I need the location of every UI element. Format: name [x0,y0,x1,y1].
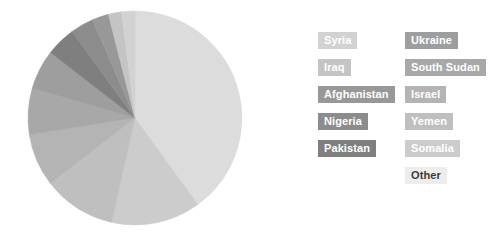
legend-label-syria: Syria [318,32,357,49]
legend-item[interactable]: Afghanistan [318,84,395,101]
legend-label-somalia: Somalia [405,140,460,157]
legend-label-israel: Israel [405,86,446,103]
legend-item[interactable]: Iraq [318,57,395,74]
legend-item[interactable]: Other [405,165,486,182]
chart-page: SyriaIraqAfghanistanNigeriaPakistan Ukra… [0,0,493,236]
legend-label-other: Other [405,167,447,184]
legend-label-afghanistan: Afghanistan [318,86,395,103]
legend-item[interactable]: Pakistan [318,138,395,155]
legend-label-south-sudan: South Sudan [405,59,486,76]
legend-item[interactable]: Nigeria [318,111,395,128]
legend-item[interactable]: South Sudan [405,57,486,74]
legend-label-nigeria: Nigeria [318,113,368,130]
legend-item[interactable]: Yemen [405,111,486,128]
legend: SyriaIraqAfghanistanNigeriaPakistan Ukra… [300,30,493,220]
legend-label-ukraine: Ukraine [405,32,458,49]
legend-item[interactable]: Israel [405,84,486,101]
legend-column-left: SyriaIraqAfghanistanNigeriaPakistan [318,30,395,165]
legend-label-iraq: Iraq [318,59,351,76]
legend-label-yemen: Yemen [405,113,453,130]
pie-chart-svg [0,0,280,236]
legend-item[interactable]: Ukraine [405,30,486,47]
legend-item[interactable]: Somalia [405,138,486,155]
legend-item[interactable]: Syria [318,30,395,47]
legend-column-right: UkraineSouth SudanIsraelYemenSomaliaOthe… [405,30,486,192]
pie-chart [0,0,280,236]
legend-label-pakistan: Pakistan [318,140,376,157]
